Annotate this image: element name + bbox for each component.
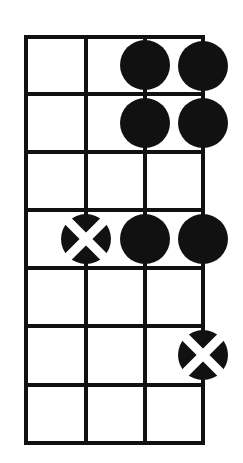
note-marker <box>120 214 170 264</box>
note-marker-circle <box>178 41 228 91</box>
note-marker <box>120 40 170 90</box>
fretboard-canvas <box>0 0 243 463</box>
note-marker <box>120 98 170 148</box>
note-marker-circle <box>120 214 170 264</box>
note-marker-circle <box>120 98 170 148</box>
note-marker-circle <box>120 40 170 90</box>
note-marker <box>178 98 228 148</box>
fretboard-diagram <box>0 0 243 463</box>
note-marker-circle <box>178 214 228 264</box>
root-marker <box>61 214 111 264</box>
root-marker <box>178 330 228 380</box>
note-marker <box>178 214 228 264</box>
note-marker <box>178 41 228 91</box>
note-marker-circle <box>178 98 228 148</box>
